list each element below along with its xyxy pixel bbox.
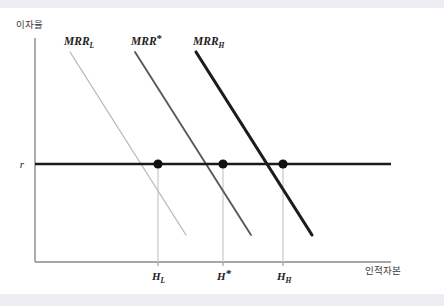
equilibrium-dot-hstar bbox=[218, 159, 227, 168]
x-axis-title: 인적자본 bbox=[365, 265, 401, 276]
curve-label-mrr-star: MRR* bbox=[130, 32, 163, 47]
curve-label-mrr-high-main: MRR bbox=[192, 35, 219, 47]
tick-label-hh-sub: H bbox=[285, 276, 293, 285]
chart-figure: 이자율 인적자본 r M bbox=[0, 8, 444, 294]
curve-label-mrr-low: MRRL bbox=[63, 35, 95, 50]
curve-label-mrr-star-sup: * bbox=[157, 32, 163, 44]
tick-label-hstar-main: H bbox=[216, 270, 226, 282]
y-axis-title: 이자율 bbox=[16, 19, 43, 30]
curve-label-mrr-low-main: MRR bbox=[63, 35, 90, 47]
tick-label-hl-main: H bbox=[151, 270, 161, 282]
curve-label-mrr-low-sub: L bbox=[89, 41, 95, 50]
mrr-human-capital-chart: 이자율 인적자본 r M bbox=[0, 8, 444, 294]
curve-mrr-low bbox=[70, 52, 186, 235]
curve-label-mrr-star-main: MRR bbox=[130, 35, 157, 47]
curve-label-mrr-high: MRRH bbox=[192, 35, 226, 50]
tick-label-hl: HL bbox=[151, 270, 166, 285]
equilibrium-dot-hl bbox=[153, 159, 162, 168]
r-axis-label: r bbox=[20, 158, 25, 170]
tick-label-hstar-sup: * bbox=[226, 267, 232, 279]
tick-label-hstar: H* bbox=[216, 267, 232, 282]
curve-label-mrr-high-sub: H bbox=[218, 41, 226, 50]
curve-mrr-high bbox=[196, 52, 312, 235]
curve-mrr-star bbox=[135, 52, 251, 235]
screenshot-stage: 이자율 인적자본 r M bbox=[0, 0, 444, 306]
bottom-spacer-band bbox=[0, 294, 444, 306]
tick-label-hh: HH bbox=[276, 270, 293, 285]
equilibrium-dot-hh bbox=[278, 159, 287, 168]
top-spacer-band bbox=[0, 0, 444, 8]
tick-label-hl-sub: L bbox=[160, 276, 166, 285]
tick-label-hh-main: H bbox=[276, 270, 286, 282]
